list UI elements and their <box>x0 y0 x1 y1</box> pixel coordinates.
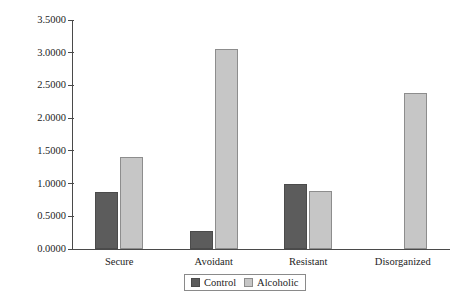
bar-disorganized-alcoholic <box>404 93 427 249</box>
y-axis-tick-mark <box>68 183 74 184</box>
bar-avoidant-alcoholic <box>215 49 238 249</box>
y-axis-tick-label: 1.0000 <box>37 178 66 190</box>
y-axis-tick-mark <box>68 85 74 86</box>
y-axis-tick: 0.5000 <box>0 210 80 222</box>
y-axis-line <box>72 20 73 250</box>
legend-swatch-control-icon <box>191 278 200 287</box>
bar-chart: Frequency of Marijuana Use 3.50003.00002… <box>0 0 456 304</box>
x-axis-label-avoidant: Avoidant <box>167 254 262 270</box>
bar-resistant-alcoholic <box>309 191 332 249</box>
y-axis-tick-label: 0.0000 <box>37 243 66 255</box>
bar-resistant-control <box>284 184 307 249</box>
x-axis-label-resistant: Resistant <box>261 254 356 270</box>
x-axis-line <box>72 249 450 250</box>
bar-avoidant-control <box>190 231 213 249</box>
x-axis-label-secure: Secure <box>72 254 167 270</box>
y-axis-tick-mark <box>68 118 74 119</box>
y-axis-tick: 2.0000 <box>0 112 80 124</box>
x-axis-label-disorganized: Disorganized <box>356 254 451 270</box>
y-axis-tick-mark <box>68 216 74 217</box>
y-axis-tick-label: 2.5000 <box>37 79 66 91</box>
y-axis-tick: 2.5000 <box>0 79 80 91</box>
y-axis-tick: 3.5000 <box>0 14 80 26</box>
y-axis-tick: 0.0000 <box>0 243 80 255</box>
y-axis-tick-label: 0.5000 <box>37 210 66 222</box>
y-axis-tick-label: 1.5000 <box>37 145 66 157</box>
chart-legend: Control Alcoholic <box>184 274 306 291</box>
y-axis-tick-mark <box>68 20 74 21</box>
y-axis-tick: 1.0000 <box>0 178 80 190</box>
y-axis-tick: 3.0000 <box>0 47 80 59</box>
legend-label-alcoholic: Alcoholic <box>257 277 298 289</box>
legend-swatch-alcoholic-icon <box>244 278 253 287</box>
y-axis-tick-label: 3.0000 <box>37 47 66 59</box>
legend-item-alcoholic: Alcoholic <box>244 277 298 289</box>
y-axis-tick-mark <box>68 150 74 151</box>
bar-secure-control <box>95 192 118 249</box>
y-axis-tick-label: 3.5000 <box>37 14 66 26</box>
y-axis-tick-label: 2.0000 <box>37 112 66 124</box>
legend-item-control: Control <box>191 277 236 289</box>
legend-label-control: Control <box>204 277 236 289</box>
y-axis-tick: 1.5000 <box>0 145 80 157</box>
bar-secure-alcoholic <box>120 157 143 249</box>
y-axis-tick-mark <box>68 52 74 53</box>
